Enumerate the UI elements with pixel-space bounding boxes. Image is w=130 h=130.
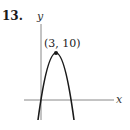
- graph: y x (3, 10): [0, 0, 130, 130]
- vertex-label: (3, 10): [44, 37, 81, 50]
- x-axis-label: x: [116, 93, 123, 106]
- vertex-point: [54, 51, 58, 55]
- parabola-curve: [38, 53, 74, 120]
- y-axis-label: y: [36, 10, 44, 23]
